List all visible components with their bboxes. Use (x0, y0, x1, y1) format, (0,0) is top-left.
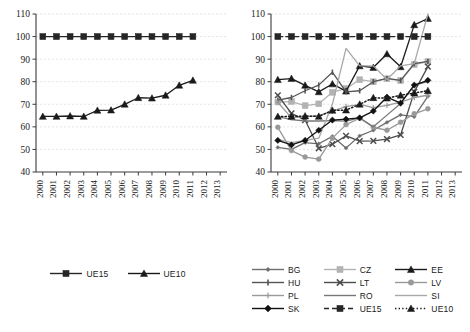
legend-label-ro: RO (360, 291, 373, 301)
x-tick-label-2002: 2002 (297, 180, 307, 198)
data-point-circle (384, 128, 389, 133)
data-point-diamond (265, 305, 272, 312)
y-tick-label-50: 50 (21, 145, 31, 155)
legend-item-right-bg[interactable]: BG (251, 264, 321, 275)
data-point-square (40, 34, 46, 40)
legend-item-right-hu[interactable]: HU (251, 277, 321, 288)
x-tick-label-2005: 2005 (338, 180, 348, 199)
data-point-circle (330, 136, 335, 141)
legend-item-right-ro[interactable]: RO (323, 290, 393, 301)
y-tick-label-100: 100 (251, 32, 266, 42)
x-tick-label-2010: 2010 (171, 180, 181, 199)
data-point-square (190, 34, 196, 40)
data-point-square (302, 103, 308, 109)
legend-item-right-lt[interactable]: LT (323, 277, 393, 288)
legend-label-lv: LV (431, 278, 441, 288)
legend-label-sk: SK (288, 304, 300, 314)
data-point-square (384, 34, 390, 40)
legend-label-ue10: UE10 (431, 304, 453, 314)
series-UE15 (40, 34, 196, 40)
legend-key-CZ (323, 264, 357, 275)
data-point-square (343, 34, 349, 40)
x-tick-label-2003: 2003 (311, 180, 321, 199)
legend-item-right-lv[interactable]: LV (394, 277, 464, 288)
legend-item-right-ue15[interactable]: UE15 (323, 303, 393, 314)
x-tick-label-2009: 2009 (393, 180, 403, 199)
data-point-x (275, 92, 281, 98)
x-tick-label-2004: 2004 (324, 180, 334, 199)
series-line-HU (278, 61, 428, 100)
y-tick-label-70: 70 (21, 100, 31, 110)
x-tick-label-2001: 2001 (48, 180, 58, 198)
legend-key-UE10 (127, 268, 161, 279)
legend-key-SI (394, 290, 428, 301)
data-point-square (398, 34, 404, 40)
legend-item-right-pl[interactable]: PL (251, 290, 321, 301)
legend-item-left-ue15[interactable]: UE15 (49, 268, 108, 279)
data-point-square (63, 271, 69, 277)
data-point-square (302, 34, 308, 40)
x-tick-label-2002: 2002 (62, 180, 72, 198)
legend-key-RO (323, 290, 357, 301)
x-tick-label-2007: 2007 (365, 180, 375, 199)
legend-key-UE10 (394, 303, 428, 314)
legend-label-lt: LT (360, 278, 370, 288)
data-point-square (108, 34, 114, 40)
legend-label-ue10: UE10 (164, 269, 186, 279)
legend-item-right-sk[interactable]: SK (251, 303, 321, 314)
y-tick-label-100: 100 (16, 32, 31, 42)
data-point-triangle (189, 77, 196, 83)
data-point-square (425, 34, 431, 40)
legend-key-BG (251, 264, 285, 275)
data-point-circle (425, 106, 430, 111)
x-tick-label-2000: 2000 (270, 180, 280, 199)
x-tick-label-2003: 2003 (76, 180, 86, 199)
x-tick-label-2004: 2004 (89, 180, 99, 199)
x-tick-label-2009: 2009 (158, 180, 168, 199)
legend-item-right-ue10[interactable]: UE10 (394, 303, 464, 314)
x-tick-label-2010: 2010 (406, 180, 416, 199)
data-point-square (411, 34, 417, 40)
legend-label-ee: EE (431, 265, 443, 275)
data-point-circle (344, 122, 349, 127)
data-point-square (176, 34, 182, 40)
chart-panel-left: 4050607080901001102000200120022003200420… (0, 0, 235, 332)
data-point-triangle (302, 82, 309, 88)
data-point-circle (412, 111, 417, 116)
legend-key-HU (251, 277, 285, 288)
legend-label-si: SI (431, 291, 439, 301)
data-point-plus (265, 293, 271, 299)
data-point-circle (275, 125, 280, 130)
data-point-square (316, 34, 322, 40)
legend-item-left-ue10[interactable]: UE10 (127, 268, 186, 279)
legend-item-right-si[interactable]: SI (394, 290, 464, 301)
data-point-square (329, 34, 335, 40)
data-point-square (135, 34, 141, 40)
data-point-square (67, 34, 73, 40)
series-UE15 (275, 34, 431, 40)
data-point-square (337, 306, 343, 312)
y-tick-label-110: 110 (16, 9, 30, 19)
x-tick-label-2012: 2012 (434, 180, 444, 198)
data-point-triangle (121, 101, 128, 107)
legend-label-hu: HU (288, 278, 301, 288)
data-point-square (370, 34, 376, 40)
data-point-square (275, 34, 281, 40)
line-chart-right: 4050607080901001102000200120022003200420… (235, 0, 470, 250)
legend-item-right-ee[interactable]: EE (394, 264, 464, 275)
legend-key-SK (251, 303, 285, 314)
x-tick-label-2008: 2008 (379, 180, 389, 199)
legend-key-LT (323, 277, 357, 288)
data-point-triangle (315, 88, 322, 94)
data-point-circle (398, 120, 403, 125)
y-tick-label-80: 80 (21, 77, 31, 87)
data-point-diamond (275, 137, 281, 143)
legend-item-right-cz[interactable]: CZ (323, 264, 393, 275)
x-tick-label-2011: 2011 (185, 180, 195, 198)
series-CZ (275, 59, 431, 109)
y-tick-label-40: 40 (256, 167, 266, 177)
y-tick-label-40: 40 (21, 167, 31, 177)
data-point-triangle (411, 21, 418, 27)
plot-area-left: 4050607080901001102000200120022003200420… (0, 0, 235, 250)
x-tick-label-2000: 2000 (35, 180, 45, 199)
